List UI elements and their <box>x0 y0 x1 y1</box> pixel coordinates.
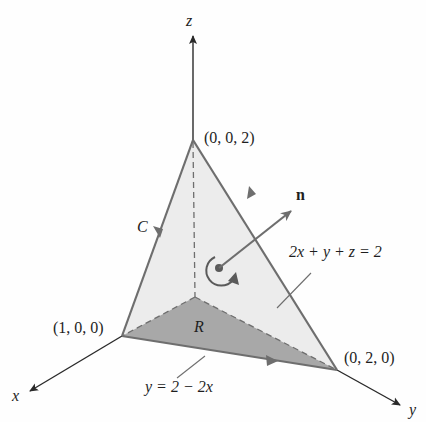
vertex-z-intercept-label: (0, 0, 2) <box>204 130 255 146</box>
boundary-line-label: y = 2 − 2x <box>145 379 213 395</box>
y-axis-label: y <box>409 402 416 418</box>
curve-direction-arrow-right <box>247 186 256 199</box>
z-axis-label: z <box>186 13 192 29</box>
y-axis <box>337 370 400 405</box>
normal-n-label: n <box>296 187 305 203</box>
region-r-label: R <box>194 319 204 335</box>
boundary-line-leader <box>177 356 205 378</box>
x-axis <box>30 336 122 391</box>
curve-c-label: C <box>137 219 148 235</box>
x-axis-label: x <box>12 388 19 404</box>
plane-equation-label: 2x + y + z = 2 <box>289 244 382 260</box>
vertex-x-intercept-label: (1, 0, 0) <box>53 320 104 336</box>
vertex-y-intercept-label: (0, 2, 0) <box>344 350 395 366</box>
diagram-canvas: z x y (0, 0, 2) (1, 0, 0) (0, 2, 0) C R … <box>0 0 426 422</box>
